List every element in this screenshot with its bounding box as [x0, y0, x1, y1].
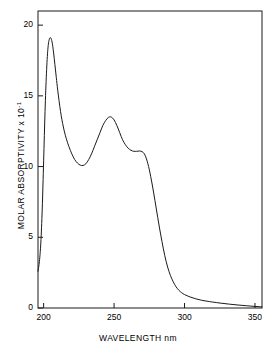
x-axis-title: WAVELENGTH nm [0, 333, 276, 343]
y-tick-label: 20 [13, 19, 33, 29]
x-tick-label: 250 [100, 312, 128, 322]
absorption-spectrum-plot [0, 0, 276, 355]
y-axis-title-text: MOLAR ABSORPTIVITY x 10 [16, 108, 26, 229]
x-tick-label: 350 [241, 312, 269, 322]
spectrum-curve [38, 38, 262, 307]
chart-figure: 05101520 200250300350 WAVELENGTH nm MOLA… [0, 0, 276, 355]
y-axis-title: MOLAR ABSORPTIVITY x 10-1 [16, 70, 27, 260]
x-tick-label: 300 [171, 312, 199, 322]
axis-frame [38, 11, 262, 308]
plot-frame [38, 11, 262, 308]
y-tick-label: 0 [13, 302, 33, 312]
x-tick-label: 200 [30, 312, 58, 322]
y-axis-title-exponent: -1 [16, 102, 22, 108]
data-series-group [38, 38, 262, 307]
